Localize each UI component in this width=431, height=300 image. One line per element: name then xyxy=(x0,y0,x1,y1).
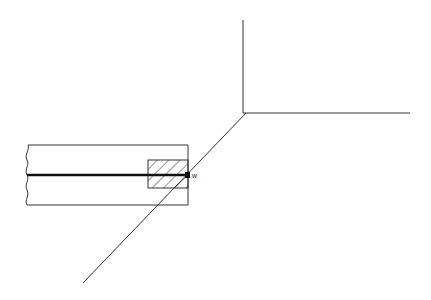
rod-end-w xyxy=(185,172,190,178)
diagram-canvas: w xyxy=(0,0,431,300)
y-axis-diagonal xyxy=(83,113,246,283)
beam-block xyxy=(26,145,190,205)
diagram-svg xyxy=(0,0,431,300)
label-w: w xyxy=(192,172,197,179)
axes xyxy=(83,20,410,283)
